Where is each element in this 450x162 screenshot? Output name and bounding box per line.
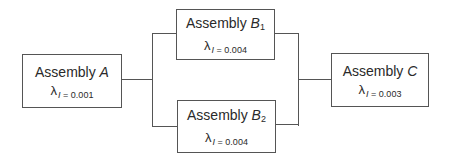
connector-a-to-junction [121, 79, 153, 80]
connector-b1-to-junction [274, 33, 299, 34]
block-title: Assembly C [343, 63, 418, 79]
block-assembly-b1: Assembly B1 λI = 0.004 [176, 9, 275, 60]
failure-rate: λI = 0.001 [51, 84, 94, 99]
block-assembly-a: Assembly A λI = 0.001 [22, 54, 122, 108]
failure-rate: λI = 0.004 [204, 39, 247, 54]
block-assembly-b2: Assembly B2 λI = 0.004 [177, 100, 276, 153]
connector-junction-to-c [298, 79, 331, 80]
block-assembly-c: Assembly C λI = 0.003 [331, 53, 429, 107]
connector-junction-to-b2 [152, 126, 177, 127]
failure-rate: λI = 0.004 [205, 131, 248, 146]
left-junction-vertical [152, 33, 153, 127]
failure-rate: λI = 0.003 [359, 83, 402, 98]
block-title: Assembly B2 [187, 107, 266, 127]
connector-b2-to-junction [275, 124, 299, 125]
block-title: Assembly B1 [186, 15, 265, 35]
block-title: Assembly A [35, 64, 109, 80]
connector-junction-to-b1 [152, 33, 177, 34]
